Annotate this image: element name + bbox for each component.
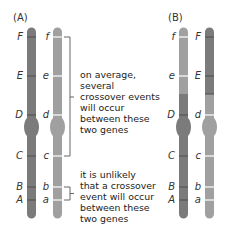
gene-label: d [191,110,201,120]
gene-label: c [39,151,49,161]
gene-label: E [191,71,201,81]
gene-label: c [191,151,201,161]
gene-label: a [39,195,49,205]
gene-label: f [39,32,49,42]
panel-a-label: (A) [13,12,28,23]
panel-b-label: (B) [168,12,183,23]
gene-label: C [13,151,23,161]
gene-label: d [39,110,49,120]
gene-label: A [13,195,23,205]
gene-label: b [39,182,49,192]
gene-label: D [165,110,175,120]
gene-label: F [191,32,201,42]
gene-label: A [165,195,175,205]
annotation-unlikely-crossover: it is unlikely that a crossover event wi… [80,169,156,224]
panel-a-chromosome-paternal [50,28,65,219]
panel-a-chromosome-maternal [24,28,39,219]
gene-label: e [165,71,175,81]
gene-label: a [191,195,201,205]
bracket-b-to-a [64,187,74,200]
gene-label: e [39,71,49,81]
annotation-frequent-crossover: on average, several crossover events wil… [80,69,160,135]
gene-label: D [13,110,23,120]
gene-label: E [13,71,23,81]
gene-label: B [165,182,175,192]
gene-label: B [13,182,23,192]
bracket-f-to-c [64,37,74,156]
gene-label: C [165,151,175,161]
gene-label: b [191,182,201,192]
gene-label: f [165,32,175,42]
gene-label: F [13,32,23,42]
